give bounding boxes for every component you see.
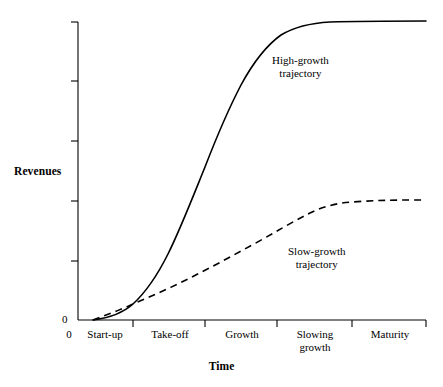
y-origin-label: 0 [62, 313, 68, 325]
series-label-high-growth-line1: High-growth [272, 54, 329, 66]
series-label-slow-growth-line1: Slow-growth [288, 245, 345, 257]
x-tick-label-growth: Growth [213, 328, 271, 341]
y-axis-ticks [71, 22, 78, 261]
x-tick-label-maturity: Maturity [359, 328, 421, 341]
x-origin-label: 0 [62, 328, 76, 341]
x-tick-label-slowing-growth: Slowing growth [285, 328, 345, 354]
x-tick-label-take-off: Take-off [141, 328, 199, 341]
y-axis-title: Revenues [14, 165, 61, 177]
x-tick-label-slowing-growth-line2: growth [299, 341, 330, 353]
x-tick-label-start-up: Start-up [76, 328, 134, 341]
x-axis-title: Time [0, 360, 443, 372]
x-tick-label-slowing-growth-line1: Slowing [297, 328, 334, 340]
series-label-high-growth: High-growth trajectory [272, 54, 329, 80]
revenue-lifecycle-chart: Revenues 0 Time 0 Start-up Take-off Grow… [0, 0, 443, 387]
series-slow-growth-curve [93, 200, 426, 320]
series-label-slow-growth: Slow-growth trajectory [288, 245, 345, 271]
series-label-slow-growth-line2: trajectory [296, 258, 338, 270]
series-high-growth-curve [93, 21, 426, 320]
x-axis-ticks [133, 320, 426, 327]
series-label-high-growth-line2: trajectory [279, 67, 321, 79]
